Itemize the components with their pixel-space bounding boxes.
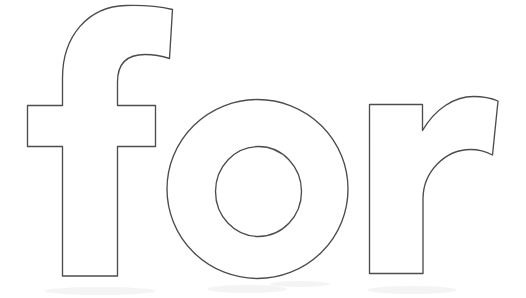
word-outline-artboard — [0, 0, 526, 298]
letter-o-counter-ellipse — [216, 147, 302, 237]
letter-o[interactable] — [167, 100, 348, 279]
page-canvas: for — [0, 0, 526, 298]
